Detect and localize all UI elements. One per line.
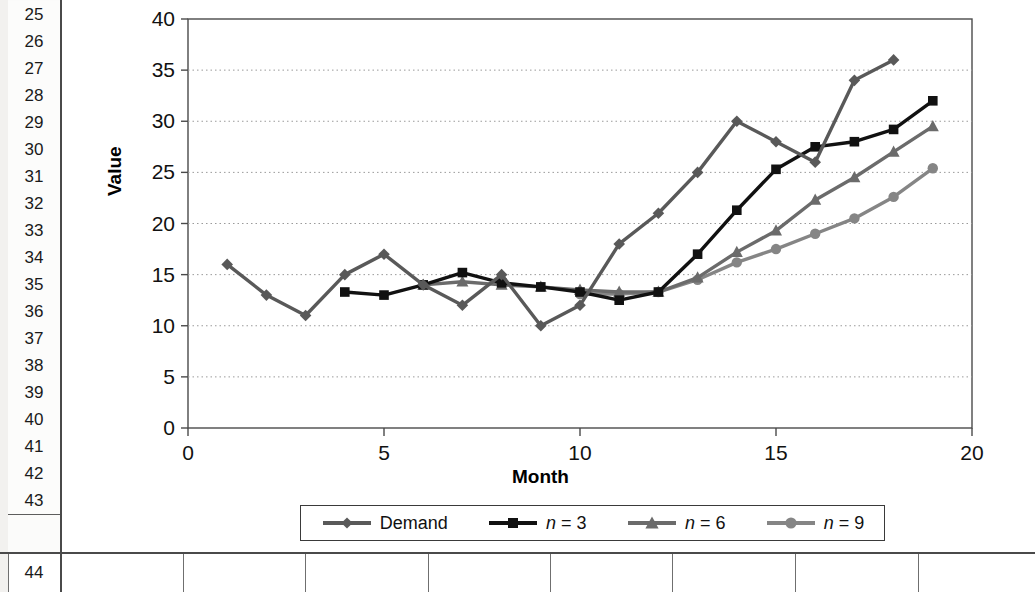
data-point-marker <box>889 125 899 135</box>
row-header-41[interactable]: 41 <box>8 433 60 461</box>
y-tick-label-0: 0 <box>163 416 175 439</box>
row-header-29[interactable]: 29 <box>8 109 60 137</box>
row-header-25[interactable]: 25 <box>8 1 60 29</box>
row-header-34[interactable]: 34 <box>8 244 60 272</box>
column-separator-5 <box>672 554 673 592</box>
data-point-marker <box>849 213 859 223</box>
y-tick-label-5: 5 <box>163 365 175 388</box>
legend-item-n3[interactable]: n = 3 <box>487 513 587 534</box>
data-point-marker <box>810 229 820 239</box>
row-header-28[interactable]: 28 <box>8 82 60 110</box>
row-header-36[interactable]: 36 <box>8 298 60 326</box>
column-separator-6 <box>795 554 796 592</box>
x-tick-label-10: 10 <box>568 441 591 464</box>
row-header-43[interactable]: 43 <box>8 487 60 515</box>
legend-item-n6[interactable]: n = 6 <box>626 513 726 534</box>
data-point-marker <box>654 287 664 297</box>
y-tick-label-10: 10 <box>152 314 175 337</box>
data-point-marker <box>732 205 742 215</box>
y-tick-label-35: 35 <box>152 58 175 81</box>
x-axis-title: Month <box>88 466 993 488</box>
row-header-32[interactable]: 32 <box>8 190 60 218</box>
y-tick-label-25: 25 <box>152 160 175 183</box>
y-tick-label-30: 30 <box>152 109 175 132</box>
column-separator-4 <box>550 554 551 592</box>
y-axis-title: Value <box>104 166 126 196</box>
data-point-marker <box>928 96 938 106</box>
data-point-marker <box>771 165 781 175</box>
chart-legend[interactable]: Demandn = 3n = 6n = 9 <box>300 505 885 541</box>
legend-marker-diamond-icon <box>321 513 373 533</box>
data-point-marker <box>340 287 350 297</box>
row-header-35[interactable]: 35 <box>8 271 60 299</box>
x-tick-label-15: 15 <box>764 441 787 464</box>
row-header-44[interactable]: 44 <box>8 554 62 592</box>
row-header-40[interactable]: 40 <box>8 406 60 434</box>
row-header-column: 25262728293031323334353637383940414243 <box>8 0 62 552</box>
legend-item-n9[interactable]: n = 9 <box>765 513 865 534</box>
row-header-42[interactable]: 42 <box>8 460 60 488</box>
data-point-marker <box>771 244 781 254</box>
y-tick-label-40: 40 <box>152 7 175 30</box>
data-point-marker <box>888 192 898 202</box>
row-header-27[interactable]: 27 <box>8 55 60 83</box>
legend-label: n = 9 <box>824 513 865 534</box>
legend-label: Demand <box>380 513 448 534</box>
data-point-marker <box>732 257 742 267</box>
embedded-line-chart[interactable]: 051015202530354005101520 Value Month <box>88 0 993 548</box>
x-tick-label-5: 5 <box>378 441 390 464</box>
row-header-26[interactable]: 26 <box>8 28 60 56</box>
legend-item-demand[interactable]: Demand <box>321 513 448 534</box>
legend-marker-triangle-icon <box>626 513 678 533</box>
data-point-marker <box>850 137 860 147</box>
data-point-marker <box>810 142 820 152</box>
data-point-marker <box>693 249 703 259</box>
legend-label: n = 6 <box>685 513 726 534</box>
row-header-30[interactable]: 30 <box>8 136 60 164</box>
legend-label: n = 3 <box>546 513 587 534</box>
x-tick-label-20: 20 <box>960 441 983 464</box>
row-header-37[interactable]: 37 <box>8 325 60 353</box>
column-separator-2 <box>305 554 306 592</box>
data-point-marker <box>379 290 389 300</box>
y-tick-label-15: 15 <box>152 263 175 286</box>
row-header-33[interactable]: 33 <box>8 217 60 245</box>
x-tick-label-0: 0 <box>182 441 194 464</box>
row-header-39[interactable]: 39 <box>8 379 60 407</box>
data-point-marker <box>536 282 546 292</box>
column-separator-3 <box>428 554 429 592</box>
column-separator-7 <box>918 554 919 592</box>
data-point-marker <box>458 268 468 278</box>
legend-marker-square-icon <box>487 513 539 533</box>
data-point-marker <box>575 287 585 297</box>
column-separator-1 <box>183 554 184 592</box>
data-point-marker <box>928 163 938 173</box>
y-tick-label-20: 20 <box>152 212 175 235</box>
row-header-38[interactable]: 38 <box>8 352 60 380</box>
data-point-marker <box>614 295 624 305</box>
legend-marker-circle-icon <box>765 513 817 533</box>
row-header-31[interactable]: 31 <box>8 163 60 191</box>
spreadsheet-bottom-row: 44 <box>0 552 1035 592</box>
